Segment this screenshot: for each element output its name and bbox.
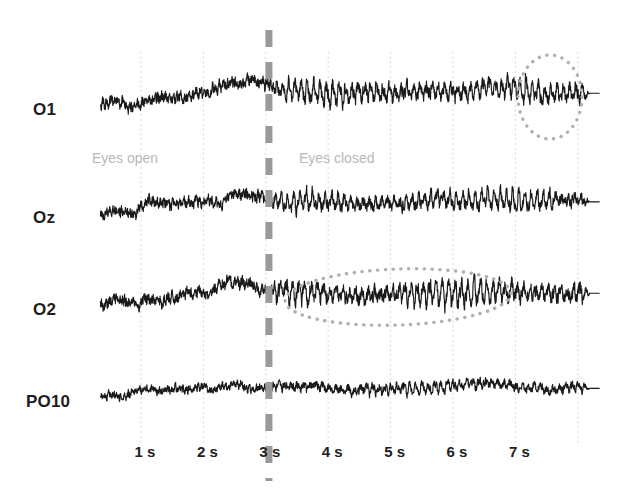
signal-trace-o2 [100, 274, 599, 313]
eeg-plot-canvas [0, 0, 626, 495]
channel-label-o1: O1 [33, 100, 56, 120]
channel-label-po10: PO10 [26, 392, 70, 412]
channel-label-o2: O2 [33, 300, 56, 320]
eeg-figure: O1OzO2PO10 1 s2 s3 s4 s5 s6 s7 s Eyes op… [0, 0, 626, 495]
x-tick-3s: 3 s [259, 443, 280, 460]
x-tick-1s: 1 s [135, 443, 156, 460]
signal-trace-po10 [100, 377, 599, 401]
x-tick-4s: 4 s [322, 443, 343, 460]
x-tick-6s: 6 s [447, 443, 468, 460]
x-tick-7s: 7 s [509, 443, 530, 460]
x-tick-2s: 2 s [197, 443, 218, 460]
x-tick-5s: 5 s [384, 443, 405, 460]
signal-traces-group [100, 73, 599, 402]
annotation-eyes-closed: Eyes closed [299, 150, 374, 166]
signal-trace-o1 [100, 73, 599, 115]
annotation-eyes-open: Eyes open [92, 150, 158, 166]
channel-label-oz: Oz [33, 208, 55, 228]
signal-trace-oz [100, 185, 599, 220]
